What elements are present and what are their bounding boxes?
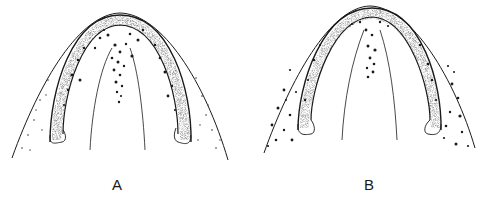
column-left [342,30,364,140]
outer-contour [12,13,228,160]
column-left [90,48,112,150]
column-right [130,48,145,150]
illustration-svg [0,0,483,200]
panel-label-a: A [112,176,122,193]
stipple-center-b [351,21,389,78]
panel-a [12,13,228,160]
figure: A B [0,0,483,200]
column-right [380,30,397,140]
stipple-center-a [94,29,144,103]
outer-contour [264,6,475,153]
panel-label-b: B [364,176,374,193]
panel-b [264,6,475,153]
